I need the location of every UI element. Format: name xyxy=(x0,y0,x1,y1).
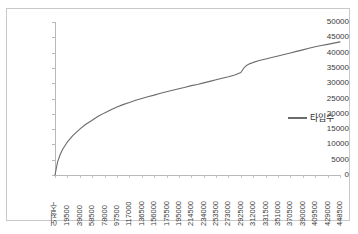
x-axis-tick-label: 136500 xyxy=(138,180,146,226)
x-axis-tick-label: 117000 xyxy=(125,180,133,226)
x-axis-tick-label: 39000 xyxy=(76,180,84,226)
x-axis-tick-label: 429000 xyxy=(324,180,332,226)
series-line-타입수 xyxy=(55,42,340,175)
x-axis-tick-label: 448500 xyxy=(336,180,344,226)
legend-line-swatch-icon xyxy=(288,117,307,119)
x-axis-tick-label: 370500 xyxy=(286,180,294,226)
chart-container: 5000045000400003500030000250002000015000… xyxy=(6,8,350,221)
x-axis-tick-label: 214500 xyxy=(187,180,195,226)
legend: 타입수 xyxy=(288,113,334,123)
x-axis-tick-label: 351000 xyxy=(274,180,282,226)
x-axis-tick-label: 409500 xyxy=(311,180,319,226)
x-axis-tick-label: 331500 xyxy=(262,180,270,226)
x-axis-tick-label: 78000 xyxy=(101,180,109,226)
x-axis-tick-label: 175500 xyxy=(163,180,171,226)
x-axis-tick-label: 390000 xyxy=(299,180,307,226)
x-axis-tick-label: 234000 xyxy=(200,180,208,226)
series-plot-area xyxy=(55,22,340,176)
x-axis-tick-label: 156000 xyxy=(150,180,158,226)
x-axis-tick-label: 58500 xyxy=(88,180,96,226)
legend-label: 타입수 xyxy=(310,113,334,123)
x-axis-tick-label: 97500 xyxy=(113,180,121,226)
x-axis-tick-label: 292500 xyxy=(237,180,245,226)
x-axis-tick-label: 195000 xyxy=(175,180,183,226)
x-axis-tick-label: 19500 xyxy=(63,180,71,226)
x-axis-tick-mark xyxy=(340,175,341,178)
x-axis-tick-label: 273000 xyxy=(224,180,232,226)
x-axis-title-label: 어절수 xyxy=(51,180,59,226)
x-axis-tick-label: 312000 xyxy=(249,180,257,226)
x-axis-tick-label: 253500 xyxy=(212,180,220,226)
